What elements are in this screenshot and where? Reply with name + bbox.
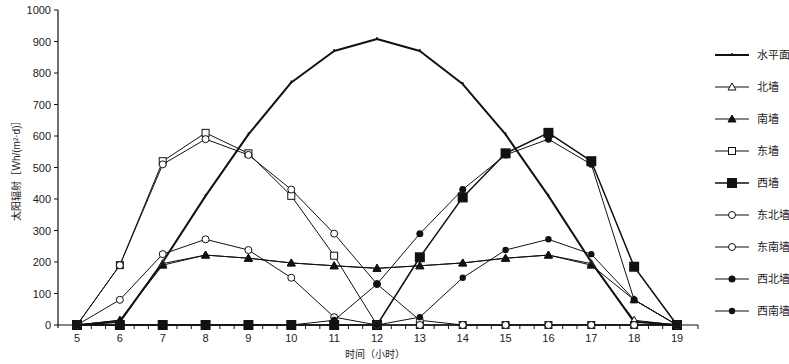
x-tick-label: 17 [585, 332, 597, 344]
square-filled-marker [727, 178, 737, 188]
y-tick-label: 400 [33, 193, 51, 205]
circle-open-marker [245, 247, 252, 254]
circle-open-marker [288, 186, 295, 193]
legend: 水平面北墙南墙东墙西墙东北墙东南墙西北墙西南墙 [715, 49, 789, 317]
x-tick-label: 13 [414, 332, 426, 344]
circle-filled-marker [460, 275, 466, 281]
circle-filled-marker [417, 314, 423, 320]
square-open-marker [331, 252, 338, 259]
circle-open-marker [331, 230, 338, 237]
x-tick-label: 14 [457, 332, 469, 344]
y-tick-label: 800 [33, 67, 51, 79]
legend-item: 东北墙 [715, 208, 789, 221]
triangle-filled-marker [202, 251, 210, 258]
y-tick-label: 300 [33, 225, 51, 237]
circle-open-marker [459, 322, 466, 329]
circle-filled-marker [502, 247, 508, 253]
x-tick-label: 5 [74, 332, 80, 344]
diamond-filled-marker [416, 230, 423, 237]
circle-open-marker [202, 236, 209, 243]
circle-filled-marker [631, 297, 637, 303]
diamond-filled-marker [545, 136, 552, 143]
x-axis-title: 时间（小时） [345, 348, 405, 360]
square-filled-marker [458, 192, 468, 202]
circle-open-marker [202, 136, 209, 143]
solar-radiation-chart: 0100200300400500600700800900100056789101… [0, 0, 789, 364]
x-tick-label: 11 [328, 332, 339, 344]
x-tick-label: 19 [671, 332, 683, 344]
circle-filled-marker [288, 322, 294, 328]
circle-open-marker [159, 161, 166, 168]
x-tick-label: 18 [628, 332, 640, 344]
circle-open-marker [245, 151, 252, 158]
diamond-filled-marker [588, 161, 595, 168]
circle-open-marker [545, 322, 552, 329]
circle-open-marker [502, 322, 509, 329]
diamond-filled-marker [374, 281, 381, 288]
series-line [77, 139, 677, 325]
x-tick-label: 9 [245, 332, 251, 344]
circle-filled-marker [545, 236, 551, 242]
circle-filled-marker [160, 322, 166, 328]
legend-item: 水平面 [715, 49, 789, 61]
circle-open-marker [729, 212, 736, 219]
circle-open-marker [116, 296, 123, 303]
circle-filled-marker [331, 322, 337, 328]
legend-label: 西墙 [757, 176, 779, 189]
x-tick-label: 6 [117, 332, 123, 344]
circle-open-marker [631, 322, 638, 329]
x-tick-label: 7 [160, 332, 166, 344]
legend-item: 西南墙 [715, 304, 789, 317]
circle-open-marker [588, 322, 595, 329]
y-axis-title: 太阳辐射［Wh/(m²·d)］ [10, 116, 22, 221]
x-tick-label: 15 [499, 332, 511, 344]
legend-label: 东南墙 [757, 240, 789, 253]
circle-open-marker [416, 322, 423, 329]
legend-label: 东墙 [757, 144, 779, 157]
y-tick-label: 700 [33, 99, 51, 111]
series-1 [73, 251, 681, 328]
legend-item: 西北墙 [715, 272, 789, 285]
diamond-filled-marker [502, 151, 509, 158]
circle-open-marker [159, 251, 166, 258]
circle-filled-marker [74, 322, 80, 328]
legend-item: 南墙 [715, 112, 779, 125]
legend-item: 北墙 [715, 80, 779, 93]
legend-label: 西南墙 [757, 304, 789, 317]
circle-open-marker [729, 244, 736, 251]
circle-open-marker [288, 274, 295, 281]
legend-label: 北墙 [757, 80, 779, 93]
circle-filled-marker [674, 322, 680, 328]
legend-label: 水平面 [757, 49, 789, 61]
y-tick-label: 200 [33, 256, 51, 268]
legend-item: 东墙 [715, 144, 779, 157]
legend-label: 西北墙 [757, 272, 789, 285]
y-tick-label: 1000 [27, 4, 51, 16]
series-group [72, 37, 682, 330]
circle-filled-marker [117, 322, 123, 328]
square-filled-marker [629, 262, 639, 272]
circle-open-marker [116, 262, 123, 269]
y-tick-label: 900 [33, 36, 51, 48]
y-tick-label: 0 [45, 319, 51, 331]
circle-filled-marker [374, 322, 380, 328]
circle-filled-marker [588, 251, 594, 257]
x-tick-label: 16 [542, 332, 554, 344]
square-open-marker [729, 148, 736, 155]
y-tick-label: 100 [33, 288, 51, 300]
legend-label: 东北墙 [757, 208, 789, 221]
y-tick-label: 600 [33, 130, 51, 142]
triangle-filled-marker [544, 251, 552, 258]
x-tick-label: 10 [285, 332, 297, 344]
legend-label: 南墙 [757, 112, 779, 125]
square-filled-marker [415, 252, 425, 262]
series-line [77, 139, 677, 325]
legend-item: 西墙 [715, 176, 779, 189]
circle-filled-marker [729, 308, 735, 314]
y-tick-label: 500 [33, 162, 51, 174]
x-tick-label: 8 [203, 332, 209, 344]
diamond-filled-marker [729, 276, 736, 283]
legend-item: 东南墙 [715, 240, 789, 253]
x-tick-label: 12 [371, 332, 383, 344]
circle-filled-marker [202, 322, 208, 328]
